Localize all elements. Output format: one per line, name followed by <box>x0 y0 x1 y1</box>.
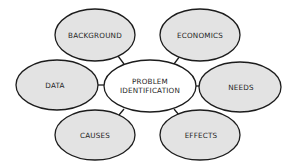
node-data: DATA <box>16 60 98 110</box>
node-label: NEEDS <box>228 83 254 92</box>
node-label: DATA <box>45 81 64 90</box>
node-causes: CAUSES <box>55 110 135 160</box>
node-needs: NEEDS <box>199 62 281 112</box>
node-label: EFFECTS <box>185 131 218 140</box>
node-effects: EFFECTS <box>160 110 240 160</box>
center-label-line1: PROBLEM <box>132 77 168 86</box>
node-label: ECONOMICS <box>177 31 223 40</box>
node-label: BACKGROUND <box>68 31 122 40</box>
connector-causes <box>119 109 124 115</box>
problem-identification-diagram: BACKGROUND ECONOMICS DATA NEEDS CAUSES E… <box>0 0 291 167</box>
node-economics: ECONOMICS <box>160 9 240 61</box>
node-problem-identification: PROBLEM IDENTIFICATION <box>104 60 196 112</box>
connector-background <box>118 56 124 64</box>
node-background: BACKGROUND <box>55 9 135 61</box>
center-label-line2: IDENTIFICATION <box>120 86 180 95</box>
node-label: CAUSES <box>80 131 110 140</box>
